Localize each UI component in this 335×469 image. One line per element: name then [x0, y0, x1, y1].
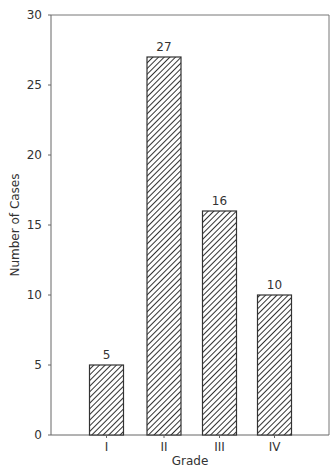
x-tick-label: I: [105, 440, 109, 454]
bar-IV: [258, 295, 292, 435]
bar-III: [203, 211, 237, 435]
bar-I: [90, 365, 124, 435]
bar-II: [147, 57, 181, 435]
x-ticks: IIIIIIIV: [105, 435, 281, 454]
x-tick-label: III: [214, 440, 225, 454]
y-tick-label: 25: [27, 78, 42, 92]
bar-chart: 051015202530 5271610 IIIIIIIV Number of …: [0, 0, 335, 469]
bars: 5271610: [90, 40, 292, 435]
data-label: 5: [103, 348, 111, 362]
y-tick-label: 10: [27, 288, 42, 302]
y-ticks: 051015202530: [27, 8, 51, 442]
data-label: 10: [267, 278, 282, 292]
y-axis-label: Number of Cases: [8, 173, 22, 276]
x-tick-label: II: [160, 440, 167, 454]
data-label: 27: [156, 40, 171, 54]
y-tick-label: 15: [27, 218, 42, 232]
data-label: 16: [212, 194, 227, 208]
y-tick-label: 0: [34, 428, 42, 442]
y-tick-label: 30: [27, 8, 42, 22]
y-tick-label: 5: [34, 358, 42, 372]
x-axis-label: Grade: [172, 454, 209, 468]
y-tick-label: 20: [27, 148, 42, 162]
x-tick-label: IV: [269, 440, 282, 454]
